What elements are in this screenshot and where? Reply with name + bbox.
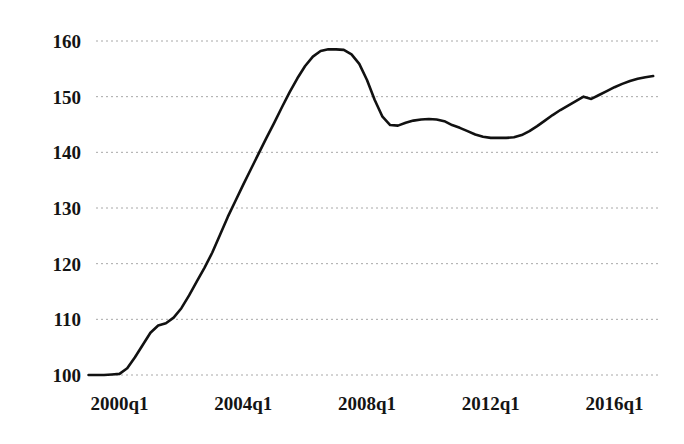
y-tick-label: 150 <box>53 87 82 108</box>
chart-background <box>0 0 684 444</box>
y-tick-label: 110 <box>54 309 81 330</box>
x-tick-label: 2008q1 <box>338 393 396 414</box>
y-tick-label: 130 <box>53 198 82 219</box>
x-tick-label: 2012q1 <box>462 393 520 414</box>
chart-container: 100110120130140150160 2000q12004q12008q1… <box>0 0 684 444</box>
x-tick-label: 2016q1 <box>585 393 643 414</box>
y-tick-label: 160 <box>53 31 82 52</box>
line-chart: 100110120130140150160 2000q12004q12008q1… <box>0 0 684 444</box>
x-tick-label: 2000q1 <box>90 393 148 414</box>
x-tick-label: 2004q1 <box>214 393 272 414</box>
y-tick-label: 100 <box>53 365 82 386</box>
y-tick-label: 120 <box>53 254 82 275</box>
y-tick-label: 140 <box>53 142 82 163</box>
